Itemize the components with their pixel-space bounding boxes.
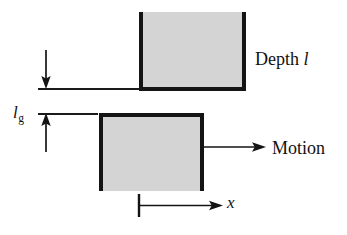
gap-up-arrow-icon (32, 110, 62, 156)
physics-diagram: Depth l Motion lg x (0, 0, 347, 235)
depth-symbol: l (304, 49, 309, 69)
x-axis-label: x (227, 194, 235, 211)
depth-label-text: Depth (255, 49, 304, 69)
lower-block (99, 113, 204, 191)
motion-right-arrow-icon (203, 138, 273, 158)
depth-down-arrow-icon (32, 50, 62, 92)
depth-label: Depth l (255, 50, 309, 68)
upper-block (139, 12, 246, 91)
gap-label: lg (13, 104, 24, 124)
motion-label: Motion (272, 139, 325, 157)
x-axis-arrow-icon (133, 192, 231, 222)
gap-subscript: g (18, 112, 24, 125)
